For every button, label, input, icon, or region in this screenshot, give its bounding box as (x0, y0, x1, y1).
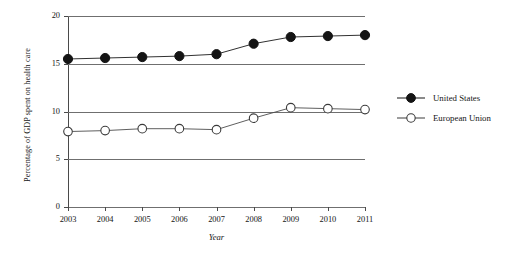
data-point (286, 32, 295, 41)
x-axis-tick-label: 2003 (48, 215, 88, 224)
y-axis-title: Percentage of GDP spent on health care (23, 15, 37, 215)
series-group (68, 16, 365, 207)
series-european-union (64, 103, 370, 135)
x-axis-tick (254, 207, 255, 211)
y-axis-tick-label: 20 (52, 11, 60, 20)
chart-figure: Percentage of GDP spent on health care 0… (0, 0, 526, 256)
x-axis-tick (142, 207, 143, 211)
x-axis-tick (328, 207, 329, 211)
x-axis-tick-label: 2006 (159, 215, 199, 224)
y-axis-tick-label: 10 (52, 107, 60, 116)
data-point (101, 126, 110, 135)
x-axis-tick-label: 2011 (345, 215, 385, 224)
x-axis-tick (217, 207, 218, 211)
legend-item-european-union: European Union (396, 108, 520, 128)
data-point (138, 124, 147, 133)
data-point (64, 127, 73, 136)
x-axis-tick (179, 207, 180, 211)
data-point (323, 31, 332, 40)
plot-area: 05101520 2003200420052006200720082009201… (68, 16, 365, 207)
x-axis-tick (68, 207, 69, 211)
x-axis-title: Year (68, 232, 365, 242)
x-axis-tick-label: 2010 (308, 215, 348, 224)
x-axis-tick-label: 2007 (197, 215, 237, 224)
x-axis-tick (291, 207, 292, 211)
chart-legend: United States European Union (396, 88, 520, 128)
data-point (249, 114, 258, 123)
y-axis-tick-label: 0 (56, 202, 60, 211)
data-point (360, 31, 369, 40)
data-point (324, 104, 333, 113)
x-axis-tick-label: 2008 (234, 215, 274, 224)
y-axis-tick-label: 15 (52, 59, 60, 68)
data-point (361, 105, 370, 114)
x-axis-tick (105, 207, 106, 211)
data-point (63, 54, 72, 63)
legend-label-united-states: United States (433, 93, 480, 103)
x-axis-tick-label: 2009 (271, 215, 311, 224)
data-point (212, 50, 221, 59)
x-axis-tick-label: 2004 (85, 215, 125, 224)
data-point (138, 52, 147, 61)
x-axis-tick (365, 207, 366, 211)
data-point (175, 52, 184, 61)
data-point (101, 53, 110, 62)
x-axis-tick-label: 2005 (122, 215, 162, 224)
legend-label-european-union: European Union (433, 113, 491, 123)
data-point (286, 103, 295, 112)
data-point (175, 124, 184, 133)
open-circle-icon (396, 111, 426, 125)
filled-circle-icon (396, 91, 426, 105)
data-point (212, 125, 221, 134)
y-axis-tick-label: 5 (56, 154, 60, 163)
legend-item-united-states: United States (396, 88, 520, 108)
data-point (249, 39, 258, 48)
series-united-states (63, 31, 369, 64)
